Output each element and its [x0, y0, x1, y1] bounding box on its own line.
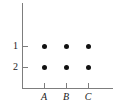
- x-axis-tick-a: [44, 83, 45, 88]
- data-point: [42, 65, 47, 70]
- y-axis-tick-1: [23, 46, 28, 47]
- x-axis-line: [22, 88, 113, 89]
- data-point: [64, 44, 69, 49]
- y-axis-tick-2: [23, 67, 28, 68]
- y-axis-label-1: 1: [6, 41, 18, 51]
- x-axis-label-a: A: [36, 92, 52, 102]
- x-axis-tick-b: [66, 83, 67, 88]
- x-axis-label-b: B: [58, 92, 74, 102]
- data-point: [64, 65, 69, 70]
- scatter-plot-figure: 1 2 A B C: [0, 0, 123, 107]
- x-axis-tick-c: [88, 83, 89, 88]
- data-point: [86, 65, 91, 70]
- data-point: [86, 44, 91, 49]
- x-axis-label-c: C: [80, 92, 96, 102]
- data-point: [42, 44, 47, 49]
- y-axis-label-2: 2: [6, 62, 18, 72]
